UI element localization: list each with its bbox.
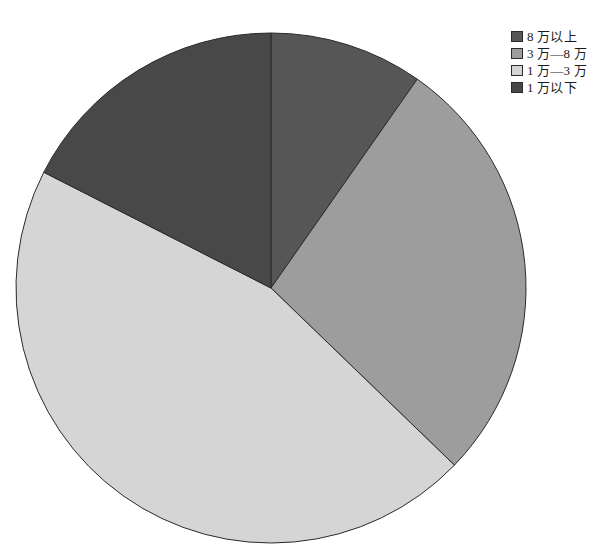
- chart-legend: 8 万以上3 万—8 万1 万—3 万1 万以下: [511, 28, 607, 95]
- pie-slice-group: [16, 33, 526, 543]
- legend-swatch-icon: [511, 48, 523, 59]
- legend-swatch-icon: [511, 65, 523, 76]
- legend-item: 8 万以上: [511, 28, 607, 44]
- legend-swatch-icon: [511, 82, 523, 93]
- legend-item-label: 3 万—8 万: [527, 47, 587, 60]
- legend-item: 1 万—3 万: [511, 62, 607, 78]
- legend-swatch-icon: [511, 31, 523, 42]
- pie-chart: 8 万以上3 万—8 万1 万—3 万1 万以下: [0, 0, 608, 547]
- legend-item-label: 1 万以下: [527, 81, 577, 94]
- legend-item-label: 8 万以上: [527, 30, 577, 43]
- legend-item: 3 万—8 万: [511, 45, 607, 61]
- legend-item-label: 1 万—3 万: [527, 64, 587, 77]
- legend-item: 1 万以下: [511, 79, 607, 95]
